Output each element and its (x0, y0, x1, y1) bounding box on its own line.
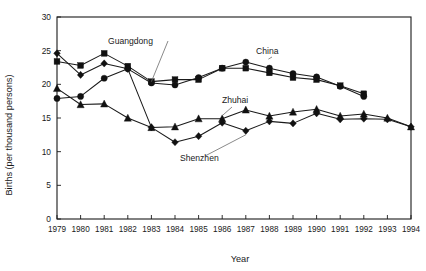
data-point (101, 60, 108, 67)
data-point (242, 106, 249, 113)
data-point (54, 95, 60, 101)
x-tick-label: 1982 (119, 225, 138, 234)
x-axis: 1979198019811982198319841985198619871988… (48, 215, 421, 234)
y-tick-label: 0 (46, 214, 51, 224)
x-tick-label: 1992 (355, 225, 374, 234)
data-point (101, 75, 107, 81)
series-label-guangdong: Guangdong (108, 36, 153, 46)
series-label-china: China (256, 46, 279, 56)
series-label-zhuhai: Zhuhai (222, 95, 248, 105)
series-zhuhai (53, 85, 414, 131)
series-label-shenzhen: Shenzhen (180, 153, 219, 163)
leader-line (151, 41, 168, 82)
data-point (124, 114, 131, 121)
plot-area-border (57, 17, 411, 219)
data-point (101, 50, 107, 56)
data-point (195, 133, 202, 140)
x-axis-title: Year (231, 254, 250, 264)
x-tick-label: 1979 (48, 225, 67, 234)
leader-line (222, 107, 232, 116)
y-axis: 051015202530 (42, 12, 61, 224)
data-point (78, 93, 84, 99)
chart-container: 051015202530 197919801981198219831984198… (0, 0, 426, 271)
data-point (361, 93, 367, 99)
data-point (243, 65, 249, 71)
data-point (219, 65, 225, 71)
x-tick-label: 1986 (213, 225, 232, 234)
x-tick-label: 1994 (402, 225, 421, 234)
leader-line (268, 57, 272, 59)
data-point (243, 59, 249, 65)
data-point (384, 116, 391, 123)
data-point (172, 77, 178, 83)
y-tick-label: 20 (42, 79, 52, 89)
series-guangdong (54, 50, 367, 96)
data-point (53, 85, 60, 92)
x-tick-label: 1983 (142, 225, 161, 234)
y-tick-label: 5 (46, 180, 51, 190)
x-tick-label: 1989 (284, 225, 303, 234)
y-tick-label: 25 (42, 46, 52, 56)
data-point (196, 75, 202, 81)
x-tick-label: 1981 (95, 225, 114, 234)
y-tick-label: 15 (42, 113, 52, 123)
x-tick-label: 1990 (307, 225, 326, 234)
x-tick-label: 1985 (189, 225, 208, 234)
data-point (290, 70, 296, 76)
data-point (54, 59, 60, 65)
data-point (172, 139, 179, 146)
y-tick-label: 10 (42, 147, 52, 157)
data-point (314, 74, 320, 80)
data-point (243, 127, 250, 134)
y-tick-label: 30 (42, 12, 52, 22)
x-tick-label: 1980 (71, 225, 90, 234)
data-point (266, 65, 272, 71)
data-point (290, 120, 297, 127)
x-tick-label: 1987 (237, 225, 256, 234)
x-tick-label: 1991 (331, 225, 350, 234)
data-point (172, 82, 178, 88)
data-point (337, 83, 343, 89)
data-point (78, 63, 84, 69)
y-axis-title: Births (per thousand persons) (4, 74, 14, 195)
x-tick-label: 1993 (378, 225, 397, 234)
births-line-chart: 051015202530 197919801981198219831984198… (0, 0, 426, 271)
x-tick-label: 1984 (166, 225, 185, 234)
x-tick-label: 1988 (260, 225, 279, 234)
